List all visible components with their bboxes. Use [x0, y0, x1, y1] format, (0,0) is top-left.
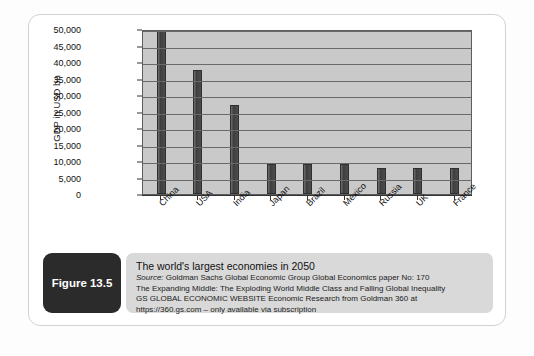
y-tick-mark: [137, 129, 142, 130]
y-tick-mark: [137, 112, 142, 113]
caption-box: The world's largest economies in 2050 So…: [126, 253, 493, 313]
figure-note-line-3: GS GLOBAL ECONOMIC WEBSITE Economic Rese…: [136, 294, 483, 305]
caption-row: Figure 13.5 The world's largest economie…: [43, 253, 493, 313]
y-tick-label: 35,000: [19, 75, 81, 85]
bar-series: [143, 31, 471, 194]
gridline: [143, 180, 471, 181]
bar-slot: [253, 31, 290, 194]
y-tick-label: 40,000: [19, 58, 81, 68]
gridline: [143, 130, 471, 131]
bar: [230, 105, 239, 194]
source-value: Goldman Sachs Global Economic Group Glob…: [164, 273, 430, 282]
bar-slot: [216, 31, 253, 194]
gridline: [143, 64, 471, 65]
gridline: [143, 147, 471, 148]
y-tick-label: 15,000: [19, 141, 81, 151]
gridline: [143, 114, 471, 115]
bar-slot: [363, 31, 400, 194]
y-tick-mark: [137, 79, 142, 80]
figure-note-line-2: The Expanding Middle: The Exploding Worl…: [136, 284, 483, 295]
gridline: [143, 97, 471, 98]
y-tick-mark: [137, 162, 142, 163]
y-tick-mark: [137, 63, 142, 64]
figure-panel: GDP in USD bn 05,00010,00015,00020,00025…: [28, 14, 506, 326]
y-tick-label: 30,000: [19, 91, 81, 101]
figure-source-line: Source: Goldman Sachs Global Economic Gr…: [136, 273, 483, 284]
y-tick-mark: [137, 96, 142, 97]
bar-slot: [326, 31, 363, 194]
bar: [450, 168, 459, 194]
gridline: [143, 48, 471, 49]
y-tick-mark: [137, 46, 142, 47]
y-tick-mark: [137, 178, 142, 179]
y-tick-mark: [137, 145, 142, 146]
bar: [157, 31, 166, 194]
bar: [193, 70, 202, 194]
figure-title: The world's largest economies in 2050: [136, 260, 483, 272]
figure-number-badge: Figure 13.5: [43, 253, 121, 313]
gridline: [143, 31, 471, 32]
bar-slot: [290, 31, 327, 194]
bar-slot: [180, 31, 217, 194]
bar-chart: GDP in USD bn 05,00010,00015,00020,00025…: [29, 15, 507, 239]
y-tick-label: 5,000: [19, 174, 81, 184]
source-label: Source:: [136, 273, 164, 282]
bar-slot: [436, 31, 473, 194]
plot-area: [142, 30, 472, 195]
figure-screenshot: GDP in USD bn 05,00010,00015,00020,00025…: [0, 0, 534, 356]
bar-slot: [400, 31, 437, 194]
bar: [413, 168, 422, 194]
y-tick-label: 45,000: [19, 42, 81, 52]
y-tick-label: 50,000: [19, 25, 81, 35]
bar: [377, 168, 386, 194]
gridline: [143, 163, 471, 164]
figure-note-line-4: https://360.gs.com – only available via …: [136, 305, 483, 316]
y-tick-mark: [137, 30, 142, 31]
y-tick-label: 25,000: [19, 108, 81, 118]
y-tick-label: 20,000: [19, 124, 81, 134]
bar-slot: [143, 31, 180, 194]
gridline: [143, 81, 471, 82]
y-tick-label: 0: [19, 190, 81, 200]
y-tick-label: 10,000: [19, 157, 81, 167]
